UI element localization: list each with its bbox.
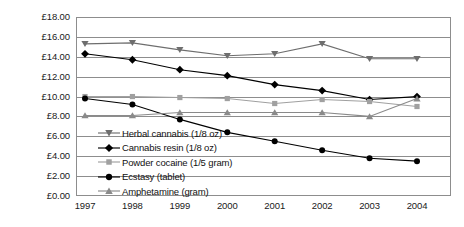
- legend-item: Powder cocaine (1/5 gram): [96, 155, 248, 170]
- legend-item-label: Amphetamine (gram): [122, 186, 209, 197]
- legend-item-label: Cannabis resin (1/8 oz): [122, 142, 217, 153]
- x-axis-tick-label: 2000: [207, 200, 247, 211]
- y-axis-tick-label: £12.00: [10, 71, 70, 82]
- gridline: [77, 77, 450, 78]
- y-axis-tick-label: £14.00: [10, 51, 70, 62]
- gridline: [77, 116, 450, 117]
- circle-marker-icon: [96, 171, 122, 183]
- gridline: [77, 57, 450, 58]
- legend-item: Cannabis resin (1/8 oz): [96, 141, 248, 156]
- diamond-marker-icon: [96, 142, 122, 154]
- chart-legend: Herbal cannabis (1/8 oz)Cannabis resin (…: [96, 126, 248, 199]
- y-axis-tick-label: £4.00: [10, 150, 70, 161]
- y-axis-tick-label: £2.00: [10, 170, 70, 181]
- legend-item-label: Powder cocaine (1/5 gram): [122, 157, 232, 168]
- square-marker-icon: [96, 156, 122, 168]
- triangle-up-marker-icon: [96, 185, 122, 197]
- y-axis-labels: £18.00£16.00£14.00£12.00£10.00£8.00£6.00…: [8, 0, 70, 227]
- legend-item: Ecstasy (tablet): [96, 170, 248, 185]
- line-chart: £18.00£16.00£14.00£12.00£10.00£8.00£6.00…: [0, 0, 464, 227]
- x-axis-tick-label: 2001: [255, 200, 295, 211]
- x-axis-tick-label: 2002: [302, 200, 342, 211]
- y-axis-tick-label: £16.00: [10, 31, 70, 42]
- legend-item: Amphetamine (gram): [96, 184, 248, 199]
- x-axis-tick-label: 1997: [65, 200, 105, 211]
- legend-item-label: Ecstasy (tablet): [122, 171, 185, 182]
- x-axis-tick-label: 2003: [350, 200, 390, 211]
- legend-item-label: Herbal cannabis (1/8 oz): [122, 128, 222, 139]
- y-axis-tick-label: £6.00: [10, 130, 70, 141]
- y-axis-tick-label: £8.00: [10, 110, 70, 121]
- x-axis-tick-label: 1998: [112, 200, 152, 211]
- legend-item: Herbal cannabis (1/8 oz): [96, 126, 248, 141]
- gridline: [77, 37, 450, 38]
- gridline: [77, 97, 450, 98]
- x-axis-tick-label: 1999: [160, 200, 200, 211]
- y-axis-tick-label: £10.00: [10, 91, 70, 102]
- y-axis-tick-label: £18.00: [10, 11, 70, 22]
- x-axis-tick-label: 2004: [397, 200, 437, 211]
- y-axis-tick-label: £0.00: [10, 190, 70, 201]
- triangle-down-marker-icon: [96, 127, 122, 139]
